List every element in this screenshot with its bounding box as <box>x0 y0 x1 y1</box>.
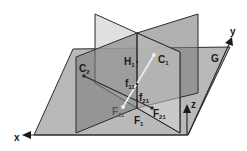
point-f21-small <box>136 99 138 101</box>
point-c1 <box>152 53 156 57</box>
ground-plane-label: G <box>211 53 219 64</box>
x-axis-arrow-icon <box>22 131 31 139</box>
plane-diagram: x y z G C1 C2 H1 f11 f21 F11 F21 F1 <box>0 0 247 151</box>
y-axis-label: y <box>230 26 236 37</box>
x-axis-label: x <box>14 132 20 143</box>
point-f11 <box>121 105 125 109</box>
z-axis-label: z <box>191 99 196 110</box>
point-h1 <box>136 61 138 63</box>
point-f11-small <box>136 83 138 85</box>
